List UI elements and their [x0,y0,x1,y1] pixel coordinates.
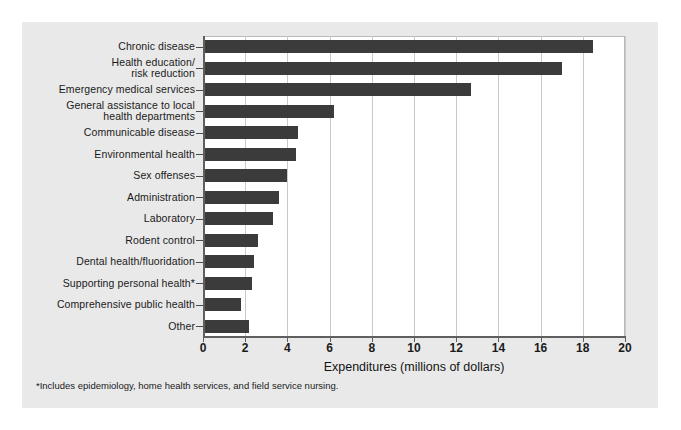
category-label: Rodent control [3,235,195,247]
category-tick-mark [196,305,203,306]
x-tick-label-20: 20 [610,341,640,355]
category-tick-mark [196,90,203,91]
category-tick-mark [196,154,203,155]
x-tick-label-4: 4 [272,341,302,355]
category-label: Administration [3,192,195,204]
gridline-20 [625,36,626,337]
bar [203,126,298,139]
bar [203,234,258,247]
bar [203,277,252,290]
category-tick-mark [196,240,203,241]
category-tick-mark [196,68,203,69]
gridline-18 [583,36,584,337]
category-tick-mark [196,219,203,220]
category-label-line: Other [3,321,195,333]
category-label: Supporting personal health* [3,278,195,290]
x-axis-title: Expenditures (millions of dollars) [203,360,625,374]
category-label-line: Supporting personal health* [3,278,195,290]
gridline-2 [245,36,246,337]
bar [203,298,241,311]
category-label-line: Emergency medical services [3,84,195,96]
gridline-12 [456,36,457,337]
x-tick-label-16: 16 [526,341,556,355]
category-tick-mark [196,111,203,112]
category-label: Comprehensive public health [3,299,195,311]
x-tick-label-6: 6 [315,341,345,355]
category-tick-mark [196,262,203,263]
gridline-6 [330,36,331,337]
gridline-8 [372,36,373,337]
bar [203,40,593,53]
category-label-line: Chronic disease [3,41,195,53]
category-label: Other [3,321,195,333]
bar [203,255,254,268]
x-tick-label-2: 2 [230,341,260,355]
category-tick-mark [196,283,203,284]
category-tick-mark [196,47,203,48]
category-label-line: Rodent control [3,235,195,247]
gridline-10 [414,36,415,337]
category-label-line: risk reduction [3,68,195,80]
bar [203,169,287,182]
bar [203,320,249,333]
bar [203,83,471,96]
gridline-16 [541,36,542,337]
bar [203,62,562,75]
category-label: Emergency medical services [3,84,195,96]
x-tick-label-0: 0 [188,341,218,355]
category-label: Sex offenses [3,170,195,182]
x-tick-label-10: 10 [399,341,429,355]
category-label: Communicable disease [3,127,195,139]
chart-figure: 02468101214161820 Expenditures (millions… [0,0,681,430]
category-tick-mark [196,197,203,198]
bar [203,212,273,225]
category-label: Environmental health [3,149,195,161]
category-label-line: Dental health/fluoridation [3,256,195,268]
category-tick-mark [196,326,203,327]
bar [203,105,334,118]
x-tick-label-18: 18 [568,341,598,355]
category-tick-mark [196,176,203,177]
x-tick-label-14: 14 [483,341,513,355]
category-label: Health education/risk reduction [3,57,195,80]
category-label-line: Environmental health [3,149,195,161]
category-label: Laboratory [3,213,195,225]
category-label: Dental health/fluoridation [3,256,195,268]
category-label-line: Communicable disease [3,127,195,139]
category-label-line: health departments [3,111,195,123]
category-label-line: Sex offenses [3,170,195,182]
bar [203,148,296,161]
y-axis-line [203,36,205,337]
category-label-line: Laboratory [3,213,195,225]
category-label: Chronic disease [3,41,195,53]
gridline-4 [287,36,288,337]
x-tick-label-12: 12 [441,341,471,355]
bar [203,191,279,204]
category-tick-mark [196,133,203,134]
gridline-14 [498,36,499,337]
chart-footnote: *Includes epidemiology, home health serv… [36,380,338,391]
category-label-line: Comprehensive public health [3,299,195,311]
category-label: General assistance to localhealth depart… [3,100,195,123]
category-label-line: Administration [3,192,195,204]
x-tick-label-8: 8 [357,341,387,355]
